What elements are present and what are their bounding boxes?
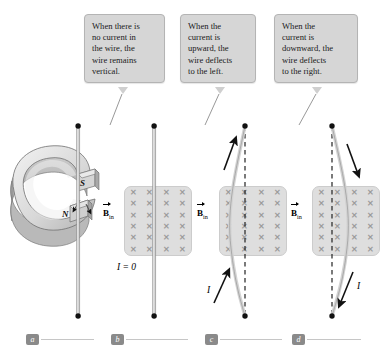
magnet-south-pole-label: S (80, 178, 85, 188)
panel-rule-d (307, 339, 361, 340)
current-arrow-up-upper (224, 140, 235, 170)
b-symbol: B (103, 208, 109, 218)
panel-rule-a (41, 339, 94, 340)
wire-panel-b (151, 123, 156, 318)
b-subscript: in (109, 213, 114, 220)
panel-d-group (329, 123, 358, 318)
magnet-north-pole-label: N (62, 209, 69, 219)
wire-terminal-dot-bottom (75, 313, 80, 318)
panel-label-b: b (111, 334, 124, 345)
horseshoe-magnet (11, 146, 99, 247)
leader-line-c (205, 94, 219, 125)
panel-label-a: a (26, 334, 39, 345)
current-label-d: I (357, 281, 360, 291)
panel-c-group (214, 123, 248, 318)
physics-figure-wire-in-magnetic-field: When there is no current in the wire, th… (0, 0, 381, 360)
panel-rule-c (220, 339, 282, 340)
b-subscript: in (297, 213, 302, 220)
wire-terminal-dot-bottom (329, 313, 334, 318)
current-label-c: I (207, 285, 210, 295)
wire-terminal-dot-top (75, 123, 80, 128)
b-field-label-c: Bin (197, 208, 208, 220)
b-subscript: in (203, 213, 208, 220)
figure-vector-layer (0, 0, 381, 360)
panel-label-d: d (292, 334, 305, 345)
b-field-label-d: Bin (291, 208, 302, 220)
wire-terminal-dot-top (242, 123, 247, 128)
leader-line-b (110, 94, 122, 125)
panel-rule-b (126, 339, 188, 340)
current-arrow-down-upper (347, 144, 358, 174)
wire-terminal-dot-top (329, 123, 334, 128)
b-symbol: B (197, 208, 203, 218)
wire-terminal-dot-bottom (151, 313, 156, 318)
b-symbol: B (291, 208, 297, 218)
wire-terminal-dot-top (151, 123, 156, 128)
wire-terminal-dot-bottom (242, 313, 247, 318)
b-field-label-b: Bin (103, 208, 114, 220)
leader-line-d (299, 94, 316, 125)
current-arrow-up-lower (214, 272, 228, 303)
panel-label-c: c (205, 334, 218, 345)
current-zero-label: I = 0 (117, 262, 136, 272)
